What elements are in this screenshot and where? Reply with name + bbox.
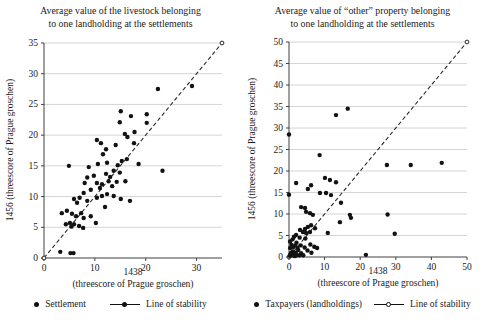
stability-line-icon — [374, 302, 404, 307]
scatter-point-icon — [34, 302, 39, 307]
svg-text:15: 15 — [29, 161, 39, 171]
svg-text:10: 10 — [274, 209, 284, 219]
legend-item-settlement: Settlement — [34, 299, 86, 309]
legend-label: Taxpayers (landholdings) — [265, 299, 362, 309]
svg-text:25: 25 — [29, 99, 39, 109]
stability-line-icon — [110, 302, 140, 307]
legend: Settlement Line of stability — [0, 299, 241, 309]
y-axis-label: 1456 (threescore of Prague groschen) — [247, 78, 257, 220]
legend-label: Line of stability — [410, 299, 471, 309]
legend: Taxpayers (landholdings) Line of stabili… — [242, 299, 483, 309]
scatter-point-icon — [254, 302, 259, 307]
svg-text:5: 5 — [278, 231, 283, 241]
chart-panel-livestock: Average value of the livestock belonging… — [0, 0, 241, 326]
svg-text:10: 10 — [29, 192, 39, 202]
svg-text:20: 20 — [274, 166, 284, 176]
svg-text:45: 45 — [274, 59, 284, 69]
svg-text:0: 0 — [33, 253, 38, 263]
svg-text:30: 30 — [29, 69, 39, 79]
legend-label: Line of stability — [146, 299, 207, 309]
x-axis-label: 1438 (threescore of Prague groschen) — [44, 266, 222, 290]
svg-text:20: 20 — [29, 130, 39, 140]
x-axis-label-line-2: (threescore of Prague groschen) — [44, 278, 222, 290]
chart-panel-other-property: Average value of “other” property belong… — [242, 0, 483, 326]
x-axis-label-line-1: 1438 — [289, 265, 467, 277]
svg-text:35: 35 — [29, 38, 39, 48]
x-axis-label: 1438 (threescore of Prague groschen) — [289, 265, 467, 289]
legend-label: Settlement — [45, 299, 86, 309]
svg-text:40: 40 — [274, 80, 284, 90]
svg-text:50: 50 — [274, 37, 284, 47]
svg-text:30: 30 — [274, 123, 284, 133]
y-axis-label: 1456 (threescore of Prague groschen) — [5, 79, 15, 221]
legend-item-line-of-stability: Line of stability — [110, 299, 207, 309]
legend-item-line-of-stability: Line of stability — [374, 299, 471, 309]
legend-item-taxpayers: Taxpayers (landholdings) — [254, 299, 362, 309]
svg-text:25: 25 — [274, 145, 284, 155]
x-axis-label-line-1: 1438 — [44, 266, 222, 278]
svg-text:15: 15 — [274, 188, 284, 198]
figure-canvas: { "page": { "background": "#ffffff" }, "… — [0, 0, 483, 326]
svg-text:35: 35 — [274, 102, 284, 112]
svg-text:5: 5 — [33, 222, 38, 232]
x-axis-label-line-2: (threescore of Prague groschen) — [289, 277, 467, 289]
svg-text:0: 0 — [278, 252, 283, 262]
